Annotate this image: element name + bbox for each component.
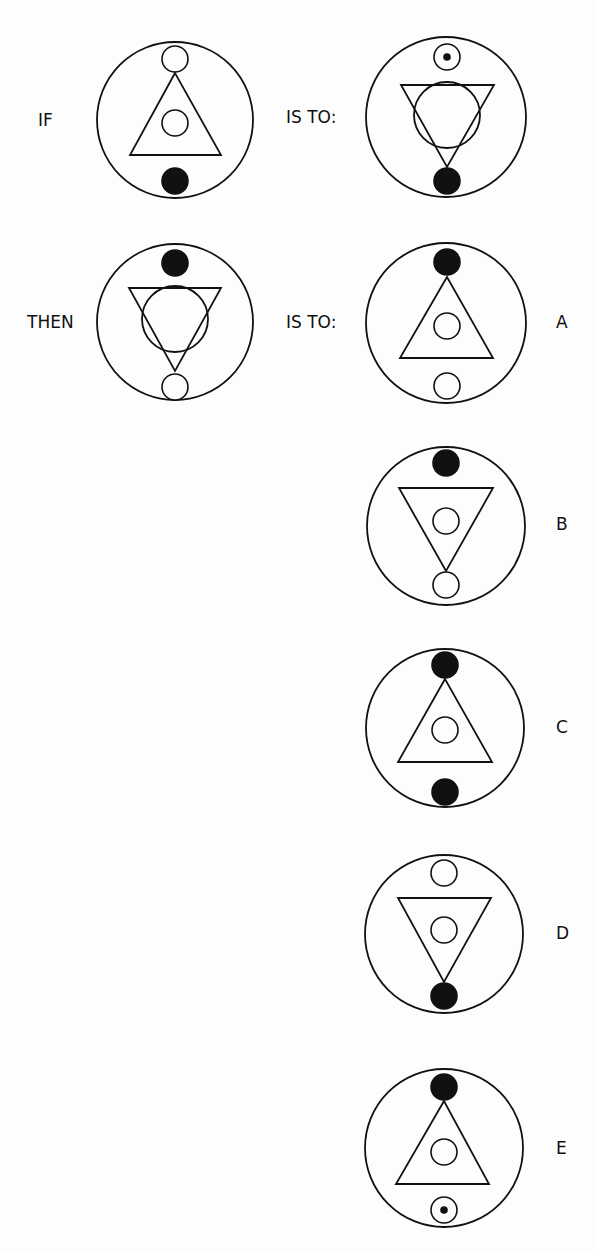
filled-circle-icon [162,250,188,276]
filled-circle-icon [162,168,188,194]
then-figure [97,244,253,400]
large-inner-circle-icon [414,82,480,148]
inner-circle-icon [433,508,459,534]
open-circle-icon [162,374,188,400]
open-circle-icon [434,373,460,399]
center-dot-icon [444,54,450,60]
inner-circle-icon [162,110,188,136]
inner-circle-icon [431,917,457,943]
filled-circle-icon [432,652,458,678]
if-figure [97,42,253,198]
figure-canvas [0,0,595,1251]
option-e-figure[interactable] [365,1069,523,1227]
filled-circle-icon [434,249,460,275]
filled-circle-icon [433,450,459,476]
filled-circle-icon [432,779,458,805]
open-circle-icon [431,860,457,886]
option-d-figure[interactable] [365,855,523,1013]
filled-circle-icon [431,983,457,1009]
option-b-figure[interactable] [367,447,525,605]
large-inner-circle-icon [142,286,208,352]
is-to-figure-1 [366,37,526,197]
option-c-figure[interactable] [366,649,524,807]
filled-circle-icon [434,168,460,194]
open-circle-icon [162,46,188,72]
option-a-figure[interactable] [366,243,526,403]
inner-circle-icon [431,1139,457,1165]
open-circle-icon [433,572,459,598]
center-dot-icon [441,1207,447,1213]
inner-circle-icon [434,313,460,339]
inner-circle-icon [432,717,458,743]
filled-circle-icon [431,1074,457,1100]
